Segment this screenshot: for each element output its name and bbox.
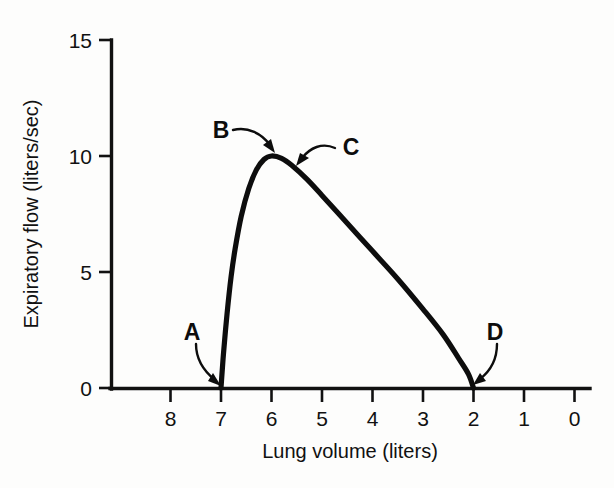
expiratory-flow-curve	[221, 156, 474, 388]
x-tick-label-4: 4	[367, 407, 379, 430]
x-tick-label-8: 8	[165, 407, 177, 430]
flow-volume-chart: 15 10 5 0 8 7 6 5 4 3 2 1 0 Lung volume …	[0, 0, 614, 488]
y-tick-label-0: 0	[80, 377, 92, 400]
annotation-c-arrowhead-icon	[296, 153, 309, 166]
x-tick-label-1: 1	[518, 407, 530, 430]
y-tick-label-5: 5	[80, 261, 92, 284]
x-tick-label-6: 6	[266, 407, 278, 430]
annotation-c-label: C	[343, 134, 360, 160]
y-axis	[99, 40, 112, 389]
annotation-d: D	[473, 319, 503, 385]
x-tick-label-3: 3	[417, 407, 429, 430]
x-tick-label-2: 2	[468, 407, 480, 430]
annotation-b: B	[213, 117, 275, 153]
y-axis-title: Expiratory flow (liters/sec)	[20, 100, 42, 329]
x-tick-labels: 8 7 6 5 4 3 2 1 0	[165, 407, 581, 430]
x-tick-label-0: 0	[569, 407, 581, 430]
annotation-d-label: D	[487, 319, 504, 345]
x-tick-label-5: 5	[316, 407, 328, 430]
y-tick-label-10: 10	[69, 145, 92, 168]
annotation-b-arrowhead-icon	[263, 139, 275, 153]
annotation-d-leader	[480, 344, 497, 379]
annotation-b-label: B	[213, 117, 230, 143]
annotation-a: A	[184, 319, 221, 386]
y-tick-labels: 15 10 5 0	[69, 29, 92, 400]
x-tick-label-7: 7	[215, 407, 227, 430]
annotation-a-label: A	[184, 319, 201, 345]
annotation-c-leader	[302, 146, 335, 158]
y-tick-label-15: 15	[69, 29, 92, 52]
x-axis	[110, 389, 590, 403]
flow-volume-figure: 15 10 5 0 8 7 6 5 4 3 2 1 0 Lung volume …	[0, 0, 614, 488]
x-axis-title: Lung volume (liters)	[262, 440, 438, 462]
annotation-c: C	[296, 134, 359, 166]
annotation-b-leader	[233, 129, 270, 145]
